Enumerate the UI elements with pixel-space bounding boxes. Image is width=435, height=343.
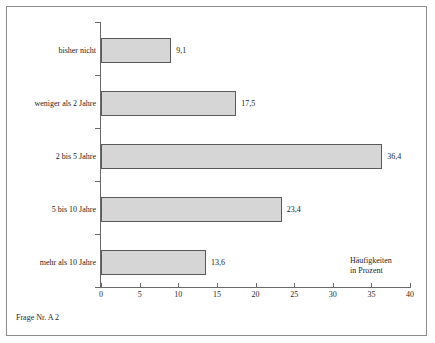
x-axis-tick [371,283,372,288]
x-axis-caption: Häufigkeiten in Prozent [350,256,392,276]
x-axis-tick-label: 0 [99,290,103,299]
bar-value-label: 36,4 [387,152,401,161]
x-axis-tick-label: 30 [329,290,337,299]
bar [101,144,382,169]
x-axis-tick [410,283,411,288]
x-axis-tick-label: 5 [138,290,142,299]
footer-note: Frage Nr. A 2 [16,313,59,322]
bar [101,250,206,275]
y-axis-tick [95,287,100,288]
category-label: weniger als 2 Jahre [34,99,96,108]
y-axis-tick [95,181,100,182]
bar-value-label: 17,5 [241,99,255,108]
x-axis-tick [140,283,141,288]
x-axis-tick-label: 15 [213,290,221,299]
x-axis-tick [217,283,218,288]
y-axis-tick [95,75,100,76]
x-axis-tick [256,283,257,288]
bar [101,38,171,63]
x-axis-tick [101,283,102,288]
chart-page: 0510152025303540 9,117,536,423,413,6 bis… [0,0,435,343]
y-axis-tick [95,128,100,129]
x-axis-tick [178,283,179,288]
category-label: mehr als 10 Jahre [40,258,96,267]
bar [101,197,282,222]
y-axis-tick [95,234,100,235]
category-label: 5 bis 10 Jahre [52,205,96,214]
x-axis-tick [294,283,295,288]
x-axis-tick-label: 20 [252,290,260,299]
x-axis-tick-label: 10 [174,290,182,299]
bar-chart: 0510152025303540 9,117,536,423,413,6 bis… [0,0,435,343]
bar-value-label: 13,6 [211,258,225,267]
bar-value-label: 23,4 [287,205,301,214]
axis-caption-line1: Häufigkeiten [350,256,392,266]
bar-value-label: 9,1 [176,46,186,55]
y-axis-tick [95,22,100,23]
bar [101,91,236,116]
category-label: bisher nicht [58,46,96,55]
x-axis-tick-label: 35 [367,290,375,299]
x-axis-tick [333,283,334,288]
x-axis-tick-label: 25 [290,290,298,299]
axis-caption-line2: in Prozent [350,266,392,276]
category-label: 2 bis 5 Jahre [56,152,96,161]
x-axis-tick-label: 40 [406,290,414,299]
